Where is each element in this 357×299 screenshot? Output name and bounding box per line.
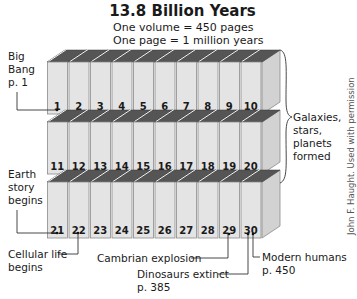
label-cellular-life: Cellular life begins xyxy=(8,248,67,274)
volume-number: 23 xyxy=(93,225,107,236)
image-credit: John F. Haught. Used with permission xyxy=(346,77,356,235)
volume-number: 11 xyxy=(50,161,64,172)
shelf-row-2: 11121314151617181920 xyxy=(47,110,280,175)
volume-number: 25 xyxy=(136,225,150,236)
volume-number: 24 xyxy=(115,225,129,236)
label-modern-humans: Modern humans p. 450 xyxy=(262,251,347,277)
volume-number: 22 xyxy=(72,225,86,236)
label-earth-story: Earth story begins xyxy=(8,168,43,207)
shelf-row-1: 12345678910 xyxy=(47,50,280,115)
label-big-bang: Big Bang p. 1 xyxy=(8,50,35,89)
volume-number: 30 xyxy=(244,225,258,236)
label-dinosaurs: Dinosaurs extinct p. 385 xyxy=(137,268,229,294)
volume-number: 21 xyxy=(50,225,64,236)
label-cambrian: Cambrian explosion xyxy=(97,252,201,265)
brace-icon xyxy=(280,50,292,183)
shelf-row-3: 21222324252627282930 xyxy=(47,170,280,239)
label-galaxies: Galaxies, stars, planets formed xyxy=(293,111,341,163)
volume-number: 28 xyxy=(201,225,215,236)
volume-number: 26 xyxy=(158,225,172,236)
volume-number: 27 xyxy=(179,225,193,236)
